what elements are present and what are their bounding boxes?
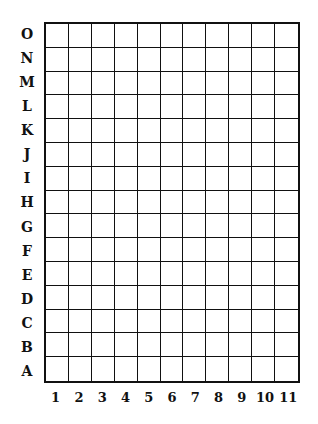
grid-cell — [115, 238, 138, 262]
grid-cell — [252, 214, 275, 238]
grid-cell — [161, 262, 184, 286]
grid-cell — [206, 167, 229, 191]
grid-cell — [115, 119, 138, 143]
grid-cell — [275, 95, 298, 119]
grid-cell — [206, 238, 229, 262]
grid-cell — [229, 72, 252, 96]
grid-cell — [252, 167, 275, 191]
grid-cell — [46, 191, 69, 215]
grid-cell — [229, 238, 252, 262]
column-label: 10 — [253, 386, 276, 408]
grid-cell — [275, 310, 298, 334]
grid-cell — [138, 191, 161, 215]
grid-cell — [183, 214, 206, 238]
grid-cell — [115, 214, 138, 238]
row-labels: ONMLKJIHGFEDCBA — [14, 22, 40, 383]
column-label: 1 — [44, 386, 67, 408]
column-label: 2 — [67, 386, 90, 408]
grid-cell — [161, 167, 184, 191]
grid-cell — [183, 286, 206, 310]
grid-cell — [183, 333, 206, 357]
grid-cell — [206, 357, 229, 381]
grid-cell — [275, 191, 298, 215]
row-label: M — [14, 70, 40, 94]
grid-cell — [183, 119, 206, 143]
grid-cell — [92, 167, 115, 191]
grid-cell — [46, 95, 69, 119]
grid-cell — [252, 119, 275, 143]
grid-cell — [252, 143, 275, 167]
column-label: 11 — [277, 386, 300, 408]
grid-cell — [92, 310, 115, 334]
grid-cell — [252, 48, 275, 72]
grid-cell — [206, 286, 229, 310]
grid-cell — [138, 143, 161, 167]
grid-cell — [46, 310, 69, 334]
grid-cell — [92, 191, 115, 215]
row-label: B — [14, 335, 40, 359]
grid-cell — [46, 333, 69, 357]
grid-cell — [252, 262, 275, 286]
grid-cell — [69, 72, 92, 96]
grid-cell — [92, 286, 115, 310]
grid-cell — [46, 167, 69, 191]
grid-cell — [275, 357, 298, 381]
grid-cell — [183, 357, 206, 381]
grid-cell — [229, 191, 252, 215]
grid-cell — [115, 262, 138, 286]
column-label: 4 — [114, 386, 137, 408]
grid-cell — [229, 310, 252, 334]
grid-cell — [138, 119, 161, 143]
grid-cell — [229, 24, 252, 48]
row-label: C — [14, 311, 40, 335]
grid-cell — [252, 72, 275, 96]
grid-cell — [183, 167, 206, 191]
grid-cell — [46, 72, 69, 96]
grid-cell — [206, 143, 229, 167]
column-label: 8 — [207, 386, 230, 408]
grid-cell — [229, 333, 252, 357]
grid-cell — [115, 310, 138, 334]
grid-cell — [252, 95, 275, 119]
row-label: I — [14, 166, 40, 190]
grid-cell — [69, 143, 92, 167]
row-label: O — [14, 22, 40, 46]
grid-cell — [206, 72, 229, 96]
grid-cell — [229, 357, 252, 381]
grid-cell — [92, 357, 115, 381]
grid-cell — [252, 24, 275, 48]
grid-cell — [206, 191, 229, 215]
grid-cell — [138, 95, 161, 119]
grid-cell — [183, 262, 206, 286]
grid-cell — [229, 95, 252, 119]
grid-cell — [115, 333, 138, 357]
grid-cell — [138, 262, 161, 286]
row-label: A — [14, 359, 40, 383]
grid-cell — [92, 119, 115, 143]
grid-cell — [275, 119, 298, 143]
grid-cell — [275, 238, 298, 262]
grid-cell — [183, 143, 206, 167]
grid-cell — [69, 310, 92, 334]
grid-cell — [161, 191, 184, 215]
row-label: D — [14, 287, 40, 311]
grid-cell — [46, 262, 69, 286]
row-label: L — [14, 94, 40, 118]
grid-cell — [46, 143, 69, 167]
grid-cell — [69, 238, 92, 262]
coordinate-grid — [44, 22, 300, 383]
grid-cell — [115, 143, 138, 167]
grid-cell — [92, 214, 115, 238]
grid-cell — [275, 48, 298, 72]
grid-cell — [183, 95, 206, 119]
grid-cell — [229, 286, 252, 310]
grid-cell — [69, 262, 92, 286]
grid-cell — [115, 167, 138, 191]
grid-cell — [69, 95, 92, 119]
grid-cell — [183, 72, 206, 96]
grid-cell — [206, 48, 229, 72]
grid-cell — [161, 333, 184, 357]
grid-cell — [229, 214, 252, 238]
grid-cell — [69, 333, 92, 357]
grid-cell — [46, 357, 69, 381]
